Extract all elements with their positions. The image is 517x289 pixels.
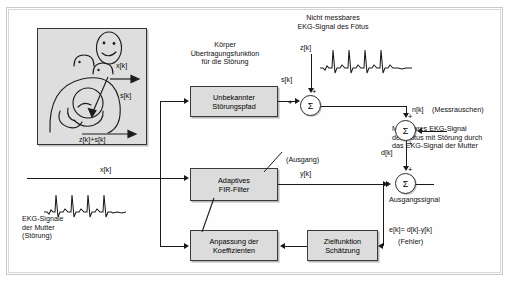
- wire-objective-to-coeff: [285, 246, 307, 247]
- annotation-body-transfer-function: Körper Übertragungsfunktion für die Stör…: [178, 41, 272, 67]
- summing-junction-3: Σ: [395, 173, 416, 194]
- arrow-s-into-junction1: [295, 98, 300, 104]
- signal-label-d: d[k]: [381, 149, 393, 157]
- arrow-into-unknown-path: [184, 98, 189, 104]
- signal-label-zs-illustration: z[k]+s[k]: [79, 136, 106, 144]
- signal-label-z: z[k]: [300, 44, 311, 52]
- mother-ecg-waveform: [44, 191, 126, 219]
- annotation-measurement-noise: (Messrauschen): [432, 106, 484, 115]
- sign-plus-j2-bottom: +: [408, 140, 412, 147]
- annotation-output-signal: Ausgangssignal: [389, 196, 440, 205]
- summing-junction-1: Σ: [300, 95, 321, 116]
- wire-n-into-junction2: [422, 131, 447, 132]
- wire-x-to-unknown-path: [160, 101, 184, 102]
- wire-y-to-junction3: [278, 184, 386, 185]
- arrow-n-into-junction2: [417, 128, 422, 134]
- block-objective-function[interactable]: Zielfunktion Schätzung: [307, 230, 378, 261]
- arrow-into-junction2: [403, 113, 409, 118]
- sign-plus-j3-top: +: [408, 166, 412, 173]
- arrow-into-coeff-from-objective: [280, 243, 285, 249]
- diagram-canvas: x[k] s[k] z[k]+s[k] Körper Übertragungsf…: [0, 0, 517, 289]
- arrow-output-signal: [383, 181, 388, 187]
- wire-x-to-coeff: [160, 246, 184, 247]
- fetal-ecg-waveform: [320, 44, 412, 76]
- wire-x-riser: [160, 101, 161, 179]
- annotation-error-equation: e[k]= d[k]-y[k]: [389, 226, 432, 235]
- mother-fetus-drawing: [38, 29, 148, 146]
- signal-label-x-illustration: x[k]: [116, 62, 127, 70]
- signal-label-n: n[k]: [412, 106, 424, 114]
- summing-junction-2: Σ: [395, 120, 416, 141]
- arrow-x-into-filter: [184, 175, 189, 181]
- annotation-error-word: (Fehler): [398, 238, 423, 247]
- arrow-z-into-junction1: [308, 88, 314, 93]
- wire-s-to-junction1: [278, 101, 296, 102]
- wire-j1-out: [321, 106, 406, 107]
- annotation-fetus-not-measurable: Nicht messbares EKG-Signal des Fötus: [281, 14, 385, 31]
- wire-z-down: [311, 54, 312, 88]
- wire-j3-out: [416, 184, 434, 185]
- annotation-output-paren: (Ausgang): [286, 156, 319, 165]
- wire-x-down-to-coeff: [160, 178, 161, 246]
- wire-d-down: [406, 141, 407, 166]
- block-unknown-disturbance-path[interactable]: Unbekannter Störungspfad: [190, 86, 278, 117]
- block-coefficient-adaptation[interactable]: Anpassung der Koeffizienten: [190, 230, 278, 261]
- arrow-error-into-objective: [378, 243, 383, 249]
- wire-error-down: [383, 184, 384, 246]
- arrow-d-into-junction3: [403, 166, 409, 171]
- illustration-panel: x[k] s[k] z[k]+s[k]: [37, 28, 147, 145]
- arrow-into-coeff: [184, 243, 189, 249]
- signal-label-x: x[k]: [100, 166, 111, 174]
- wire-coeff-to-filter: [196, 198, 226, 234]
- signal-label-s-illustration: s[k]: [120, 92, 131, 100]
- signal-label-y: y[k]: [300, 170, 311, 178]
- leader-ausgang: [258, 152, 290, 174]
- signal-label-s: s[k]: [281, 76, 292, 84]
